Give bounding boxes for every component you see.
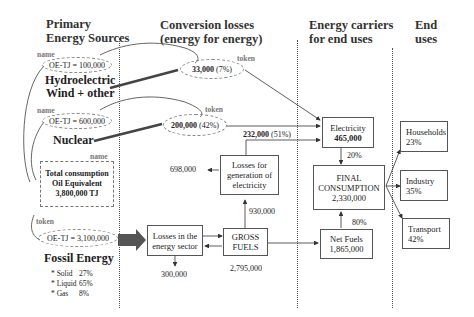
hydro-token-pct: (7%) — [216, 65, 232, 74]
end-use-industry: Industry 35% — [400, 170, 448, 201]
losses-generation-output: 698,000 — [170, 165, 196, 174]
hydro-token-value: 33,000 — [192, 65, 214, 74]
nuclear-value-ellipse: OE-TJ = 600,000 — [42, 113, 112, 129]
hydro-title: Hydroelectric Wind + other — [45, 74, 115, 100]
electricity-share: 20% — [347, 151, 362, 160]
fossil-value: OE-TJ = 3,100,000 — [47, 234, 109, 243]
hydro-value: OE-TJ = 100,000 — [49, 61, 105, 70]
electricity-box: Electricity 465,000 — [322, 117, 374, 148]
fossil-token-label: token — [36, 217, 54, 226]
hydro-token-label: token — [237, 54, 255, 63]
hydro-token-ellipse: 33,000 (7%) — [180, 59, 244, 79]
fossil-breakdown-gas: * Gas8% — [51, 289, 93, 299]
net-fuels-box: Net Fuels 1,865,000 — [320, 229, 373, 259]
net-fuels-share: 80% — [352, 218, 367, 227]
final-consumption-box: FINAL CONSUMPTION 2,330,000 — [313, 165, 385, 210]
fossil-value-ellipse: OE-TJ = 3,100,000 — [38, 229, 118, 247]
gross-fuels-value: 2,795,000 — [230, 264, 262, 273]
hydro-name-label: name — [37, 50, 55, 59]
hydro-value-ellipse: OE-TJ = 100,000 — [42, 57, 112, 73]
end-use-households: Households 23% — [400, 121, 448, 152]
fossil-breakdown-solid: * Solid27% — [51, 269, 93, 279]
losses-sector-box: Losses in the energy sector — [147, 225, 203, 256]
nuclear-token-pct: (42%) — [199, 121, 219, 130]
generation-input-value: 930,000 — [249, 207, 275, 216]
thermal-flow-label: 232,000 (51%) — [243, 130, 291, 139]
losses-generation-box: Losses for generation of electricity — [220, 155, 279, 195]
losses-sector-output: 300,000 — [161, 270, 187, 279]
fossil-breakdown: * Solid27% * Liquid65% * Gas8% — [51, 269, 93, 299]
nuclear-value: OE-TJ = 600,000 — [49, 117, 105, 126]
gross-fuels-box: GROSS FUELS — [223, 228, 268, 256]
total-consumption-box: Total consumption Oil Equivalent 3,800,0… — [40, 161, 114, 207]
end-use-transport: Transport 42% — [402, 218, 450, 249]
fossil-title: Fossil Energy — [44, 252, 114, 265]
nuclear-token-value: 200,000 — [171, 121, 197, 130]
nuclear-name-label: name — [37, 106, 55, 115]
total-name-label: name — [90, 152, 108, 161]
fossil-breakdown-liquid: * Liquid65% — [51, 279, 93, 289]
nuclear-token-label: token — [205, 105, 223, 114]
nuclear-token-ellipse: 200,000 (42%) — [163, 114, 227, 136]
nuclear-title: Nuclear — [53, 134, 94, 147]
